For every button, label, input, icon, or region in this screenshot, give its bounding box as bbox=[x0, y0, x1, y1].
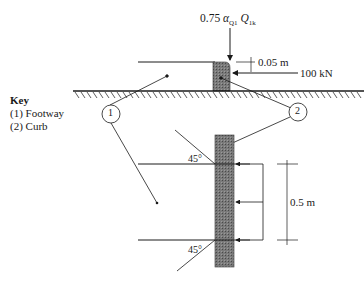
callout-2-label: 2 bbox=[295, 106, 300, 116]
key-legend: Key (1) Footway (2) Curb bbox=[10, 95, 64, 132]
height-label: 0.5 m bbox=[290, 197, 315, 208]
angle-bottom-label: 45° bbox=[188, 245, 202, 255]
diagram-canvas bbox=[0, 0, 364, 281]
offset-dimension bbox=[236, 57, 255, 72]
curb-plan bbox=[215, 135, 234, 267]
distributed-load bbox=[234, 164, 263, 240]
offset-label: 0.05 m bbox=[258, 57, 289, 68]
key-item-footway: (1) Footway bbox=[10, 108, 64, 119]
angle-top-label: 45° bbox=[188, 154, 202, 164]
callout-1-label: 1 bbox=[108, 108, 113, 118]
key-title: Key bbox=[10, 95, 64, 106]
vertical-load-label: 0.75 αQ1 Q1k bbox=[200, 13, 256, 27]
key-item-curb: (2) Curb bbox=[10, 121, 64, 132]
force-label: 100 kN bbox=[300, 68, 333, 79]
ground-line bbox=[73, 91, 364, 98]
